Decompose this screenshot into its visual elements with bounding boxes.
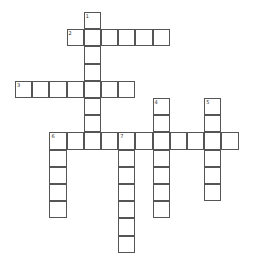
clue-number: 2 <box>69 30 72 36</box>
crossword-cell[interactable] <box>118 218 135 235</box>
crossword-cell[interactable] <box>101 29 118 46</box>
crossword-cell[interactable]: 4 <box>153 98 170 115</box>
crossword-cell[interactable] <box>84 46 101 63</box>
crossword-cell[interactable] <box>204 115 221 132</box>
crossword-cell[interactable] <box>101 132 118 149</box>
crossword-cell[interactable]: 6 <box>49 132 66 149</box>
clue-number: 1 <box>86 13 89 19</box>
crossword-cell[interactable] <box>67 81 84 98</box>
crossword-cell[interactable] <box>49 184 66 201</box>
crossword-cell[interactable]: 1 <box>84 12 101 29</box>
crossword-cell[interactable] <box>118 167 135 184</box>
crossword-cell[interactable]: 2 <box>67 29 84 46</box>
crossword-cell[interactable]: 3 <box>15 81 32 98</box>
crossword-cell[interactable] <box>221 132 238 149</box>
crossword-cell[interactable] <box>84 81 101 98</box>
crossword-cell[interactable] <box>49 150 66 167</box>
crossword-cell[interactable] <box>153 29 170 46</box>
crossword-cell[interactable] <box>135 29 152 46</box>
crossword-cell[interactable] <box>204 150 221 167</box>
crossword-cell[interactable] <box>118 184 135 201</box>
crossword-cell[interactable]: 5 <box>204 98 221 115</box>
crossword-cell[interactable] <box>118 150 135 167</box>
crossword-cell[interactable]: 7 <box>118 132 135 149</box>
crossword-cell[interactable] <box>118 236 135 253</box>
crossword-cell[interactable] <box>153 201 170 218</box>
crossword-cell[interactable] <box>49 81 66 98</box>
crossword-cell[interactable] <box>118 81 135 98</box>
crossword-cell[interactable] <box>118 29 135 46</box>
crossword-cell[interactable] <box>84 98 101 115</box>
clue-number: 7 <box>120 133 123 139</box>
crossword-cell[interactable] <box>32 81 49 98</box>
crossword-cell[interactable] <box>187 132 204 149</box>
crossword-cell[interactable] <box>118 201 135 218</box>
crossword-cell[interactable] <box>153 167 170 184</box>
crossword-cell[interactable] <box>84 132 101 149</box>
clue-number: 6 <box>51 133 54 139</box>
clue-number: 4 <box>155 99 158 105</box>
crossword-cell[interactable] <box>49 201 66 218</box>
crossword-cell[interactable] <box>204 167 221 184</box>
crossword-cell[interactable] <box>153 132 170 149</box>
clue-number: 3 <box>17 82 20 88</box>
crossword-cell[interactable] <box>153 150 170 167</box>
crossword-cell[interactable] <box>67 132 84 149</box>
crossword-cell[interactable] <box>49 167 66 184</box>
crossword-cell[interactable] <box>101 81 118 98</box>
crossword-cell[interactable] <box>170 132 187 149</box>
crossword-cell[interactable] <box>135 132 152 149</box>
crossword-cell[interactable] <box>204 184 221 201</box>
crossword-cell[interactable] <box>84 115 101 132</box>
crossword-cell[interactable] <box>153 184 170 201</box>
crossword-cell[interactable] <box>204 132 221 149</box>
crossword-cell[interactable] <box>153 115 170 132</box>
crossword-cell[interactable] <box>84 29 101 46</box>
crossword-cell[interactable] <box>84 64 101 81</box>
clue-number: 5 <box>206 99 209 105</box>
